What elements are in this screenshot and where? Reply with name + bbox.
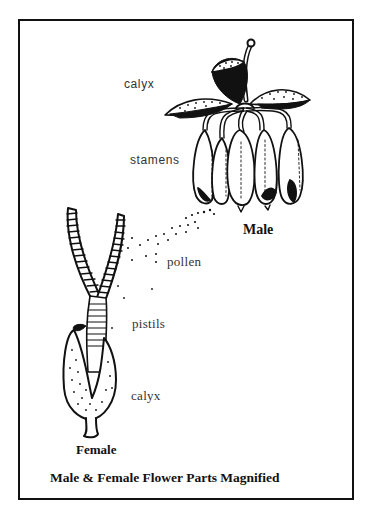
female-heading: Female (76, 442, 116, 458)
female-calyx-label: calyx (131, 388, 161, 404)
female-flower-drawing (63, 208, 125, 437)
pollen-label: pollen (167, 254, 201, 270)
male-heading: Male (243, 222, 273, 238)
male-flower-drawing (165, 40, 310, 213)
female-pistils-label: pistils (132, 316, 165, 332)
male-stamens-label: stamens (130, 153, 180, 167)
diagram-title: Male & Female Flower Parts Magnified (50, 470, 280, 486)
male-calyx-label: calyx (124, 77, 154, 91)
